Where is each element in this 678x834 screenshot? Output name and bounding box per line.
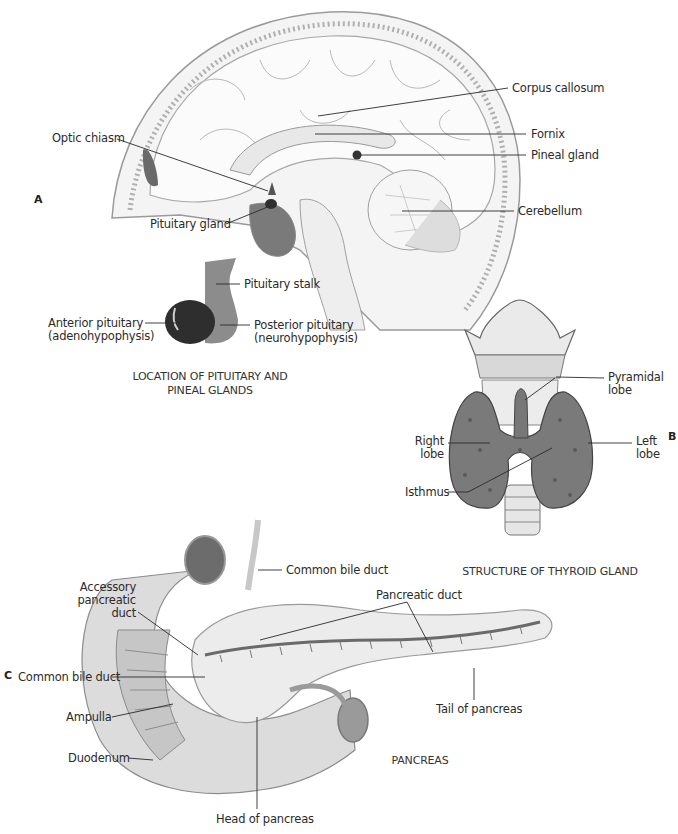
label-isthmus: Isthmus (405, 486, 449, 499)
panel-letter-b: B (668, 430, 676, 443)
pituitary-inset-illustration (165, 258, 238, 344)
label-duodenum: Duodenum (68, 752, 130, 765)
label-pyramidal-lobe-line2: lobe (608, 384, 664, 397)
label-right-lobe-line2: lobe (400, 448, 444, 461)
panel-letter-c: C (4, 669, 12, 682)
caption-thyroid: STRUCTURE OF THYROID GLAND (440, 565, 660, 579)
endocrine-figure: A Corpus callosum Fornix Pineal gland Op… (0, 0, 678, 834)
label-posterior-pituitary: Posterior pituitary (neurohypophysis) (254, 319, 358, 345)
pancreas-illustration (82, 520, 552, 793)
label-pancreatic-duct: Pancreatic duct (376, 589, 462, 602)
label-pineal-gland: Pineal gland (531, 149, 599, 162)
label-pituitary-gland: Pituitary gland (150, 218, 231, 231)
label-corpus-callosum: Corpus callosum (512, 82, 604, 95)
label-left-lobe-line2: lobe (636, 448, 660, 461)
label-fornix: Fornix (531, 128, 565, 141)
illustration-layer (0, 0, 678, 834)
label-accessory-line3: duct (70, 607, 136, 620)
label-accessory-pancreatic-duct: Accessory pancreatic duct (70, 581, 136, 620)
panel-letter-a: A (34, 193, 43, 206)
caption-pancreas: PANCREAS (380, 754, 460, 768)
thyroid-illustration (449, 300, 592, 535)
label-pyramidal-lobe: Pyramidal lobe (608, 371, 664, 397)
label-pituitary-stalk: Pituitary stalk (244, 278, 320, 291)
label-posterior-pituitary-line2: (neurohypophysis) (254, 332, 358, 345)
label-anterior-pituitary-line2: (adenohypophysis) (48, 330, 142, 343)
label-left-lobe: Left lobe (636, 435, 660, 461)
label-head-of-pancreas: Head of pancreas (216, 813, 314, 826)
label-common-bile-duct-left: Common bile duct (18, 671, 120, 684)
label-right-lobe: Right lobe (400, 435, 444, 461)
label-anterior-pituitary: Anterior pituitary (adenohypophysis) (48, 317, 142, 343)
label-tail-of-pancreas: Tail of pancreas (436, 703, 522, 716)
caption-pituitary-pineal-line2: PINEAL GLANDS (100, 384, 320, 398)
caption-pituitary-pineal-line1: LOCATION OF PITUITARY AND (100, 370, 320, 384)
label-optic-chiasm: Optic chiasm (52, 132, 125, 145)
label-ampulla: Ampulla (66, 711, 112, 724)
label-common-bile-duct-top: Common bile duct (286, 564, 388, 577)
label-cerebellum: Cerebellum (518, 205, 582, 218)
caption-pituitary-pineal: LOCATION OF PITUITARY AND PINEAL GLANDS (100, 370, 320, 398)
